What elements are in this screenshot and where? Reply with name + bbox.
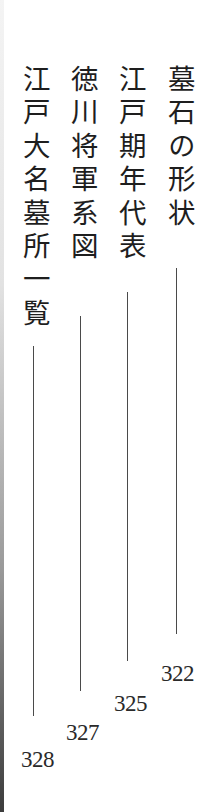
toc-entry-title[interactable]: 江戸大名墓所一覧 — [19, 65, 51, 332]
toc-entry-page-number[interactable]: 322 — [161, 662, 194, 686]
toc-entry-title[interactable]: 江戸期年代表 — [115, 65, 147, 265]
toc-entry-page-number[interactable]: 328 — [21, 748, 54, 772]
leader-line — [80, 316, 81, 691]
toc-entry-title[interactable]: 徳川将軍系図 — [67, 65, 99, 265]
page-gutter-shadow — [0, 0, 4, 812]
leader-line — [176, 268, 177, 634]
toc-entry-title[interactable]: 墓石の形状 — [164, 65, 196, 232]
leader-line — [127, 292, 128, 661]
leader-line — [33, 346, 34, 716]
toc-entry-page-number[interactable]: 325 — [114, 692, 147, 716]
toc-entry-page-number[interactable]: 327 — [66, 721, 99, 745]
